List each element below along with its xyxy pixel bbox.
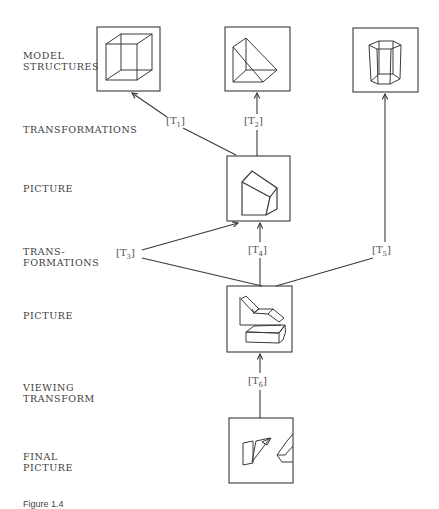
beveled-block-icon [242,171,277,215]
edge-T5 [276,94,385,286]
label-final-picture: FINAL PICTURE [23,451,73,473]
transform-label-T3: [T3] [116,247,135,261]
transform-label-T2: [T2] [244,115,263,129]
transform-label-T1: [T1] [166,115,185,129]
wedge-icon [233,38,277,82]
bar-shape-icon [246,325,286,343]
label-viewing-transform: VIEWING TRANSFORM [23,382,95,404]
label-model-structures: MODEL STRUCTURES [23,50,99,72]
figure-caption: Figure 1.4 [23,499,64,509]
box-model-wedge [225,27,290,91]
label-transformations-2: TRANS- FORMATIONS [23,246,99,268]
box-picture-block [227,156,290,221]
transform-label-T6: [T6] [248,375,267,389]
edge-T3 [142,223,262,286]
chair-shape-icon [240,296,284,325]
transform-label-T5: [T5] [372,244,391,258]
box-model-hex-prism [353,28,418,92]
transform-label-T4: [T4] [248,244,267,258]
cube-icon [106,34,152,80]
hex-prism-icon [369,41,401,84]
label-picture-1: PICTURE [23,183,73,194]
label-transformations: TRANSFORMATIONS [23,124,137,135]
label-picture-2: PICTURE [23,310,73,321]
clipped-shapes-icon [243,434,293,465]
